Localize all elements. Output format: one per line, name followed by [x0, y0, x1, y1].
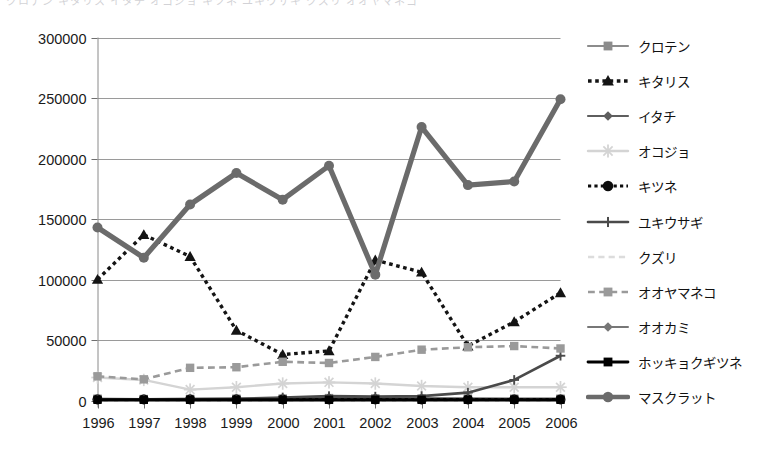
y-axis-tick-label: 300000 — [38, 31, 86, 47]
marker-circle — [603, 392, 614, 403]
marker-circle — [231, 168, 241, 178]
legend-key-icon — [586, 142, 630, 160]
marker-square — [232, 396, 240, 404]
legend-label: オオヤマネコ — [638, 282, 716, 302]
legend-item-1[interactable]: キタリス — [586, 63, 766, 98]
legend-item-2[interactable]: イタチ — [586, 98, 766, 133]
marker-square — [417, 345, 425, 353]
marker-square — [93, 396, 101, 404]
y-axis-tick-label: 0 — [78, 394, 86, 410]
marker-square — [279, 358, 287, 366]
legend-item-0[interactable]: クロテン — [586, 28, 766, 63]
legend-key-icon — [586, 72, 630, 90]
chart-page: クロテン キタリス イタチ オコジョ キツネ ユキウサギ クズリ オオヤマネコ … — [0, 0, 766, 450]
marker-square — [417, 396, 425, 404]
gridlines: 050000100000150000200000250000300000 — [38, 31, 560, 410]
x-axis-tick-label: 2006 — [545, 415, 577, 431]
legend-marker — [586, 177, 630, 195]
marker-square — [556, 396, 564, 404]
marker-circle — [278, 195, 288, 205]
marker-square — [510, 342, 518, 350]
legend-marker — [586, 318, 630, 336]
marker-square — [464, 343, 472, 351]
y-axis-tick-label: 150000 — [38, 212, 86, 228]
marker-star — [601, 145, 614, 158]
marker-square — [510, 396, 518, 404]
marker-square — [604, 41, 613, 50]
x-axis: 1996199719981999200020012002200320042005… — [82, 401, 577, 431]
legend-label: オオカミ — [638, 317, 690, 337]
legend-label: クズリ — [638, 247, 677, 267]
legend-key-icon — [586, 353, 630, 371]
x-axis-tick-label: 2005 — [498, 415, 530, 431]
series-line — [98, 235, 561, 355]
x-axis-tick-label: 2004 — [452, 415, 484, 431]
legend-key-icon — [586, 177, 630, 195]
marker-star — [415, 380, 427, 392]
legend-marker — [586, 248, 630, 266]
y-axis-tick-label: 250000 — [38, 91, 86, 107]
legend-label: オコジョ — [638, 141, 690, 161]
marker-square — [186, 364, 194, 372]
marker-square — [279, 396, 287, 404]
legend-key-icon — [586, 388, 630, 406]
marker-star — [230, 381, 242, 393]
marker-square — [371, 396, 379, 404]
legend-marker — [586, 213, 630, 231]
legend-item-9[interactable]: ホッキョクギツネ — [586, 345, 766, 380]
marker-plus-h — [603, 221, 613, 223]
series-1 — [92, 229, 566, 359]
legend-item-3[interactable]: オコジョ — [586, 134, 766, 169]
legend-marker — [586, 388, 630, 406]
legend-item-5[interactable]: ユキウサギ — [586, 204, 766, 239]
marker-circle — [139, 253, 149, 263]
marker-plus — [603, 216, 613, 226]
marker-triangle — [277, 349, 288, 359]
marker-triangle — [555, 287, 566, 297]
legend-item-4[interactable]: キツネ — [586, 169, 766, 204]
marker-square — [325, 396, 333, 404]
marker-square — [325, 359, 333, 367]
x-axis-tick-label: 2002 — [359, 415, 391, 431]
marker-circle — [417, 122, 427, 132]
legend-key-icon — [586, 248, 630, 266]
marker-circle — [603, 181, 614, 192]
marker-triangle — [509, 316, 520, 326]
marker-circle — [509, 176, 519, 186]
legend-label: キツネ — [638, 176, 677, 196]
marker-square — [556, 344, 564, 352]
marker-star — [323, 376, 335, 388]
legend-label: クロテン — [638, 36, 690, 56]
legend-marker — [586, 142, 630, 160]
marker-square — [371, 353, 379, 361]
marker-circle — [185, 199, 195, 209]
legend-item-10[interactable]: マスクラット — [586, 380, 766, 415]
marker-square — [186, 396, 194, 404]
legend-marker — [586, 353, 630, 371]
marker-plus-h — [509, 379, 519, 381]
legend-label: ユキウサギ — [638, 212, 703, 232]
chart-legend: クロテンキタリスイタチオコジョキツネユキウサギクズリオオヤマネコオオカミホッキョ… — [586, 28, 766, 415]
legend-label: キタリス — [638, 71, 690, 91]
x-axis-tick-label: 1997 — [128, 415, 160, 431]
series-line — [98, 99, 561, 274]
marker-square — [93, 372, 101, 380]
marker-star — [184, 383, 196, 395]
marker-square — [232, 363, 240, 371]
legend-marker — [586, 72, 630, 90]
marker-triangle — [138, 229, 149, 239]
legend-item-6[interactable]: クズリ — [586, 239, 766, 274]
legend-label: ホッキョクギツネ — [638, 352, 742, 372]
legend-item-7[interactable]: オオヤマネコ — [586, 274, 766, 309]
marker-plus-h — [556, 355, 566, 357]
x-axis-tick-label: 2003 — [406, 415, 438, 431]
legend-marker — [586, 107, 630, 125]
legend-marker — [586, 283, 630, 301]
legend-item-8[interactable]: オオカミ — [586, 310, 766, 345]
marker-square — [140, 396, 148, 404]
y-axis-tick-label: 100000 — [38, 273, 86, 289]
series-10 — [93, 94, 566, 279]
x-axis-tick-label: 2001 — [313, 415, 345, 431]
marker-circle — [463, 180, 473, 190]
x-axis-tick-label: 1998 — [174, 415, 206, 431]
